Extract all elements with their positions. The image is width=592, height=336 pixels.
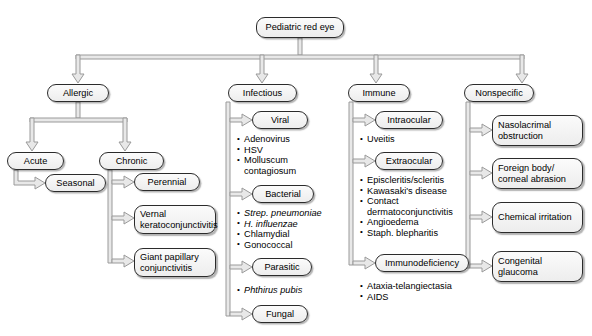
node-label: Infectious — [243, 88, 282, 99]
node-label: Acute — [24, 156, 48, 167]
list-immunodeficiency-causes: Ataxia-telangiectasia AIDS — [360, 281, 480, 302]
node-label: Congenital glaucoma — [498, 256, 577, 278]
connector-drop-allergic — [72, 55, 84, 83]
node-label: Allergic — [63, 88, 93, 99]
list-item: Kawasaki's disease — [360, 186, 475, 197]
list-item: AIDS — [360, 292, 480, 303]
node-label: Intraocular — [387, 115, 430, 126]
node-label: Viral — [271, 115, 289, 126]
node-label: Pediatric red eye — [266, 22, 335, 33]
list-parasitic-causes: Phthirus pubis — [237, 285, 341, 296]
list-item: Ataxia-telangiectasia — [360, 281, 480, 292]
flowchart-canvas: Pediatric red eye Allergic Infectious Im… — [0, 0, 592, 336]
node-label: Parasitic — [264, 262, 299, 273]
node-label: Giant papillary conjunctivitis — [140, 252, 210, 274]
list-item: Phthirus pubis — [237, 285, 341, 296]
connector-infectious-spine — [226, 102, 230, 316]
node-label: Extraocular — [386, 156, 432, 167]
node-label: Chemical irritation — [498, 212, 572, 223]
connector-chronic-to-perennial — [112, 176, 134, 188]
connector-root-stem — [298, 38, 302, 55]
connector-acute-to-seasonal — [14, 170, 45, 189]
list-item: Adenovirus — [237, 134, 333, 145]
node-label: Bacterial — [265, 189, 301, 200]
node-parasitic[interactable]: Parasitic — [252, 258, 312, 276]
connector-chronic-to-vernal — [112, 212, 134, 224]
connector-chronic-to-giant — [112, 255, 134, 267]
connector-nonspecific-to-nasolacrimal — [470, 124, 492, 136]
node-label: Chronic — [116, 156, 148, 167]
node-vernal-keratoconjunctivitis[interactable]: Vernal keratoconjunctivitis — [134, 205, 216, 234]
node-label: Perennial — [148, 177, 187, 188]
connector-drop-immune — [370, 55, 382, 83]
list-viral-causes: Adenovirus HSV Molluscum contagiosum — [237, 134, 333, 176]
node-allergic[interactable]: Allergic — [47, 84, 109, 102]
connector-immune-to-intraocular — [353, 114, 375, 126]
node-acute[interactable]: Acute — [7, 152, 64, 170]
list-bacterial-causes: Strep. pneumoniae H. influenzae Chlamydi… — [237, 208, 341, 250]
node-infectious[interactable]: Infectious — [228, 84, 297, 102]
connector-infectious-to-viral — [230, 114, 252, 126]
node-foreign-body-corneal-abrasion[interactable]: Foreign body/ corneal abrasion — [492, 158, 583, 189]
connector-nonspecific-to-congenital — [470, 260, 492, 272]
node-viral[interactable]: Viral — [252, 111, 308, 129]
node-label: Seasonal — [56, 178, 94, 189]
list-item: Angioedema — [360, 217, 475, 228]
node-chronic[interactable]: Chronic — [99, 152, 164, 170]
connector-immune-to-immunodeficiency — [353, 257, 375, 269]
list-item: Chlamydial — [237, 229, 341, 240]
list-item: Gonococcal — [237, 240, 341, 251]
node-label: Vernal keratoconjunctivitis — [140, 209, 218, 231]
node-extraocular[interactable]: Extraocular — [375, 152, 443, 170]
connector-chronic-spine — [108, 170, 112, 263]
connector-main-bus — [76, 55, 524, 59]
connector-infectious-to-fungal — [230, 308, 252, 320]
list-item: Contact dermatoconjunctivitis — [360, 196, 475, 217]
node-label: Nasolacrimal obstruction — [498, 120, 577, 142]
connector-allergic-stem — [76, 102, 80, 118]
node-seasonal[interactable]: Seasonal — [45, 174, 106, 192]
connector-immune-spine — [349, 102, 353, 265]
node-pediatric-red-eye[interactable]: Pediatric red eye — [256, 17, 344, 38]
node-label: Foreign body/ corneal abrasion — [498, 163, 577, 185]
connector-allergic-to-acute — [26, 118, 38, 151]
list-item: Staph. blepharitis — [360, 228, 475, 239]
node-fungal[interactable]: Fungal — [252, 305, 308, 323]
list-item: Uveitis — [360, 134, 470, 145]
list-item: Strep. pneumoniae — [237, 208, 341, 219]
list-intraocular-causes: Uveitis — [360, 134, 470, 145]
connector-infectious-to-bacterial — [230, 188, 252, 200]
node-immune[interactable]: Immune — [348, 84, 410, 102]
list-item: HSV — [237, 145, 333, 156]
node-label: Immunodeficiency — [385, 258, 459, 269]
node-nasolacrimal-obstruction[interactable]: Nasolacrimal obstruction — [492, 115, 583, 146]
list-item: H. influenzae — [237, 219, 341, 230]
list-item: Molluscum contagiosum — [237, 155, 333, 176]
connector-allergic-bus — [30, 118, 127, 122]
node-intraocular[interactable]: Intraocular — [375, 111, 443, 129]
list-item: Episcleritis/scleritis — [360, 175, 475, 186]
node-nonspecific[interactable]: Nonspecific — [464, 84, 534, 102]
list-extraocular-causes: Episcleritis/scleritis Kawasaki's diseas… — [360, 175, 475, 239]
node-label: Immune — [362, 88, 395, 99]
connector-allergic-to-chronic — [119, 118, 131, 151]
node-bacterial[interactable]: Bacterial — [252, 185, 314, 203]
node-label: Fungal — [266, 309, 294, 320]
connector-drop-infectious — [256, 55, 268, 83]
node-chemical-irritation[interactable]: Chemical irritation — [492, 202, 583, 233]
connector-immune-to-extraocular — [353, 155, 375, 167]
node-label: Nonspecific — [475, 88, 523, 99]
node-congenital-glaucoma[interactable]: Congenital glaucoma — [492, 251, 583, 282]
connector-drop-nonspecific — [516, 55, 528, 83]
connector-infectious-to-parasitic — [230, 261, 252, 273]
node-immunodeficiency[interactable]: Immunodeficiency — [375, 254, 469, 272]
node-giant-papillary-conjunctivitis[interactable]: Giant papillary conjunctivitis — [134, 248, 216, 277]
node-perennial[interactable]: Perennial — [134, 173, 200, 191]
